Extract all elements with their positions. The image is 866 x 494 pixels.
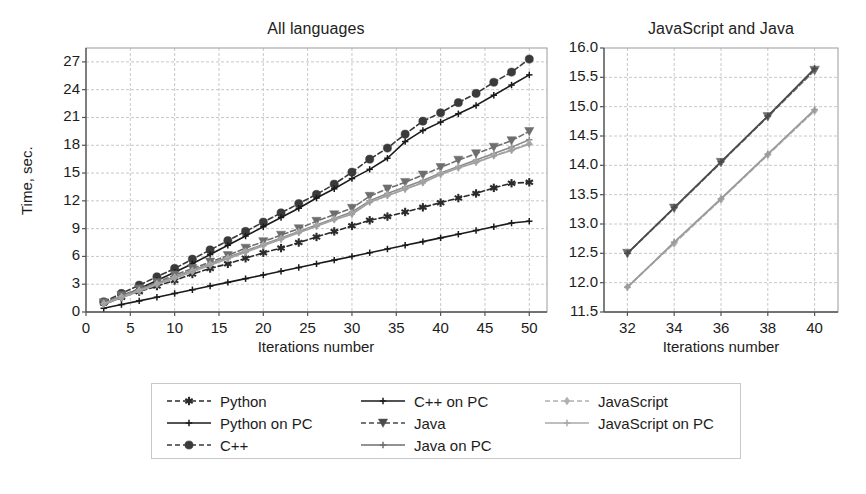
legend-marker-icon [164,413,214,433]
legend-marker-icon [358,391,408,411]
legend-item[interactable]: JavaScript [542,390,668,412]
legend-item[interactable]: Python on PC [164,412,313,434]
legend-item[interactable]: C++ [164,434,248,456]
legend-item-label: C++ [220,437,248,454]
x-axis-label-left: Iterations number [85,338,547,355]
legend-marker-icon [358,413,408,433]
legend-item-label: Java on PC [414,437,492,454]
legend-item[interactable]: Java on PC [358,434,492,456]
legend-item-label: JavaScript [598,393,668,410]
x-axis-label-right: Iterations number [604,338,838,355]
legend-marker-icon [358,435,408,455]
legend-item-label: Python [220,393,267,410]
legend-marker-icon [542,391,592,411]
legend-item[interactable]: C++ on PC [358,390,488,412]
legend-marker-icon [164,391,214,411]
plot-area-all-languages [0,0,560,370]
legend-item-label: C++ on PC [414,393,488,410]
legend-item-label: JavaScript on PC [598,415,714,432]
legend-item[interactable]: Python [164,390,267,412]
chart-panel-javascript-and-java: JavaScript and Java 11.512.012.513.013.5… [560,0,866,370]
chart-panel-all-languages: All languages Time, sec. 036912151821242… [0,0,560,370]
legend-grid: PythonPython on PCC++C++ on PCJavaJava o… [152,384,740,458]
legend-marker-icon [542,413,592,433]
figure-root: All languages Time, sec. 036912151821242… [0,0,866,494]
legend-item-label: Java [414,415,446,432]
legend-item[interactable]: JavaScript on PC [542,412,714,434]
chart-legend: PythonPython on PCC++C++ on PCJavaJava o… [151,383,741,459]
legend-item[interactable]: Java [358,412,446,434]
legend-marker-icon [164,435,214,455]
plot-area-javascript-and-java [560,0,866,370]
legend-item-label: Python on PC [220,415,313,432]
